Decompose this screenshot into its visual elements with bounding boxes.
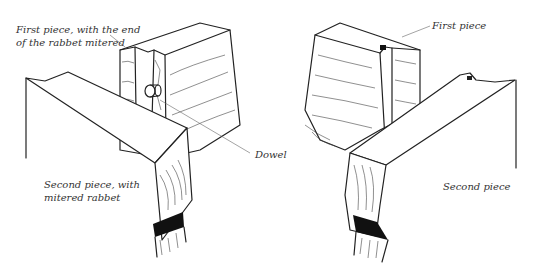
joinery-illustration: First piece, with the end of the rabbet … [0, 0, 533, 276]
leader-first-piece-right [402, 26, 430, 37]
label-left-second-piece-line2: mitered rabbet [44, 191, 140, 204]
label-dowel: Dowel [255, 148, 287, 161]
label-left-first-piece: First piece, with the end of the rabbet … [16, 23, 140, 49]
label-left-first-piece-line1: First piece, with the end [16, 23, 140, 36]
label-left-second-piece: Second piece, with mitered rabbet [44, 178, 140, 204]
label-right-second-piece: Second piece [443, 180, 510, 193]
label-left-first-piece-line2: of the rabbet mitered [16, 36, 140, 49]
label-right-first-piece: First piece [432, 19, 486, 32]
left-joint-drawing [26, 23, 250, 257]
label-left-second-piece-line1: Second piece, with [44, 178, 140, 191]
right-joint-drawing [305, 23, 516, 262]
